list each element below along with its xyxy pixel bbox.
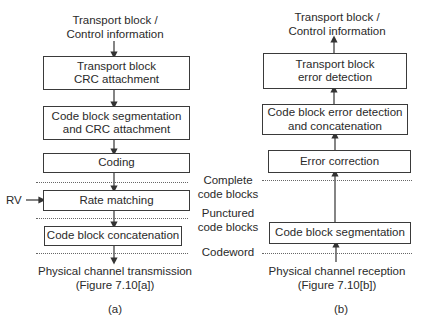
left-bottom-label: Physical channel transmission (Figure 7.… — [25, 265, 205, 292]
box-label-line: Coding — [98, 156, 134, 170]
caption-b: (b) — [321, 303, 361, 317]
box-error-correction: Error correction — [268, 150, 411, 173]
left-top-label: Transport block / Control information — [40, 14, 190, 41]
label-line: code blocks — [195, 220, 261, 234]
box-code-block-concatenation: Code block concatenation — [44, 226, 182, 246]
box-label-line: Transport block — [296, 58, 375, 72]
box-label-line: Code block concatenation — [47, 229, 179, 243]
left-bottom-label-line2: (Figure 7.10[a]) — [25, 279, 205, 293]
box-label-line: Code block segmentation — [275, 226, 405, 240]
right-bottom-label-line2: (Figure 7.10[b]) — [262, 279, 412, 293]
box-rate-matching: Rate matching — [43, 190, 190, 211]
rv-label: RV — [6, 194, 26, 208]
box-coding: Coding — [43, 153, 190, 173]
box-label-line: error detection — [296, 71, 375, 85]
label-punctured-code-blocks: Punctured code blocks — [195, 206, 261, 234]
left-separator-punctured — [36, 218, 188, 219]
label-line: Complete — [195, 173, 261, 187]
right-separator-complete — [262, 180, 412, 181]
box-code-block-error-detection: Code block error detectionand concatenat… — [262, 104, 408, 135]
label-line: code blocks — [195, 187, 261, 201]
left-top-label-line2: Control information — [40, 28, 190, 42]
left-separator-complete — [36, 182, 188, 183]
right-separator-codeword — [262, 253, 412, 254]
box-label-line: and CRC attachment — [52, 123, 182, 137]
left-separator-codeword — [36, 253, 188, 254]
box-transport-block-crc-attachment: Transport blockCRC attachment — [43, 56, 190, 90]
right-top-label-line1: Transport block / — [262, 11, 412, 25]
right-bottom-label-line1: Physical channel reception — [262, 265, 412, 279]
right-bottom-label: Physical channel reception (Figure 7.10[… — [262, 265, 412, 292]
right-top-label-line2: Control information — [262, 25, 412, 39]
box-code-block-segmentation-crc: Code block segmentationand CRC attachmen… — [43, 106, 190, 140]
box-label-line: and concatenation — [268, 120, 403, 134]
label-line: Punctured — [195, 206, 261, 220]
box-label-line: Code block segmentation — [52, 110, 182, 124]
left-top-label-line1: Transport block / — [40, 14, 190, 28]
label-codeword: Codeword — [195, 245, 261, 259]
box-label-line: Code block error detection — [268, 106, 403, 120]
right-top-label: Transport block / Control information — [262, 11, 412, 38]
box-label-line: Error correction — [300, 155, 379, 169]
label-complete-code-blocks: Complete code blocks — [195, 173, 261, 201]
box-code-block-segmentation: Code block segmentation — [269, 222, 411, 244]
box-label-line: Transport block — [74, 60, 159, 74]
box-label-line: Rate matching — [79, 194, 153, 208]
box-transport-block-error-detection: Transport blockerror detection — [263, 53, 407, 89]
left-bottom-label-line1: Physical channel transmission — [25, 265, 205, 279]
caption-a: (a) — [95, 303, 135, 317]
box-label-line: CRC attachment — [74, 73, 159, 87]
